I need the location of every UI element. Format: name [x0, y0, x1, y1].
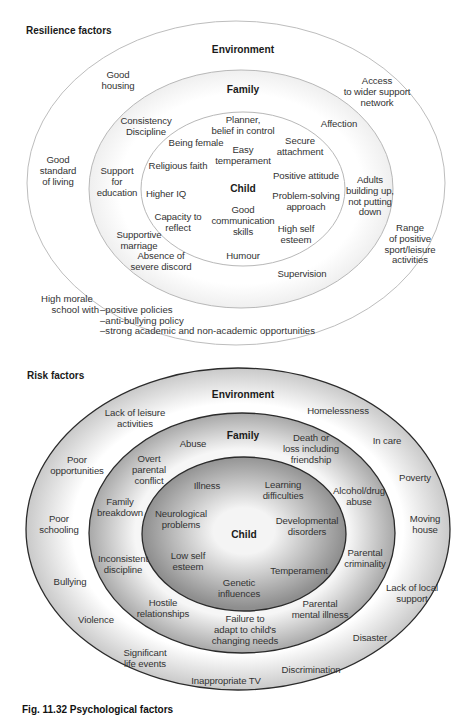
- risk-family-item-death-loss: Death or loss including friendship: [283, 433, 339, 465]
- risk-family-item-parental-criminality: Parental criminality: [344, 548, 386, 570]
- resilience-env-item-good-housing: Good housing: [102, 70, 135, 92]
- resilience-child-item-problem-solving: Problem-solving approach: [272, 191, 339, 213]
- risk-env-item-in-care: In care: [373, 436, 402, 447]
- resilience-env-item-range-activities: Range of positive sport/leisure activiti…: [385, 223, 436, 266]
- resilience-env-item-good-standard: Good standard of living: [40, 155, 77, 187]
- risk-child-item-neurological: Neurological problems: [155, 509, 207, 531]
- resilience-child-item-positive-attitude: Positive attitude: [273, 171, 339, 182]
- risk-env-item-inappropriate-tv: Inappropriate TV: [191, 676, 261, 687]
- risk-env-item-poor-opportunities: Poor opportunities: [50, 455, 104, 477]
- risk-child-item-low-self-esteem: Low self esteem: [171, 551, 205, 573]
- risk-child-item-genetic: Genetic influences: [218, 578, 260, 600]
- risk-family-item-hostile-relationships: Hostile relationships: [137, 598, 190, 620]
- resilience-child-item-higher-iq: Higher IQ: [146, 189, 186, 200]
- risk-family-item-family-breakdown: Family breakdown: [97, 497, 143, 519]
- risk-env-item-poor-schooling: Poor schooling: [39, 514, 79, 536]
- risk-family-item-abuse: Abuse: [180, 439, 207, 450]
- risk-family-item-overt-conflict: Overt parental conflict: [132, 454, 166, 486]
- resilience-family-item-absence-discord: Absence of severe discord: [131, 251, 192, 273]
- resilience-family-label: Family: [227, 84, 259, 95]
- resilience-child-item-secure-attachment: Secure attachment: [277, 136, 323, 158]
- risk-env-item-bullying: Bullying: [54, 577, 87, 588]
- risk-family-item-inconsistent-discipline: Inconsistent discipline: [98, 554, 148, 576]
- resilience-family-item-affection: Affection: [321, 119, 357, 130]
- resilience-family-item-support-education: Support for education: [97, 166, 138, 198]
- resilience-child-item-good-communication: Good communication skills: [211, 205, 274, 237]
- risk-family-item-alcohol-drug: Alcohol/drug abuse: [333, 486, 385, 508]
- risk-child-item-developmental: Developmental disorders: [276, 516, 339, 538]
- risk-env-item-significant-events: Significant life events: [123, 648, 166, 670]
- resilience-child-item-planner: Planner, belief in control: [212, 115, 275, 137]
- risk-env-item-disaster: Disaster: [353, 633, 387, 644]
- resilience-family-item-consistency: Consistency Discipline: [120, 116, 171, 138]
- risk-family-item-parental-mental-illness: Parental mental illness: [292, 599, 349, 621]
- figure-caption: Fig. 11.32 Psychological factors: [22, 704, 173, 715]
- risk-family-label: Family: [227, 430, 259, 441]
- resilience-child-item-high-self-esteem: High self esteem: [278, 224, 314, 246]
- resilience-family-item-adults-building: Adults building up, not putting down: [346, 175, 394, 218]
- risk-env-item-homelessness: Homelessness: [307, 406, 369, 417]
- risk-child-item-learning-difficulties: Learning difficulties: [263, 480, 304, 502]
- risk-env-item-moving-house: Moving house: [410, 514, 440, 536]
- risk-env-item-lack-local-support: Lack of local support: [386, 583, 438, 605]
- resilience-child-item-humour: Humour: [226, 251, 260, 262]
- resilience-child-item-easy-temperament: Easy temperament: [215, 145, 270, 167]
- resilience-title: Resilience factors: [26, 25, 112, 36]
- risk-env-item-lack-leisure: Lack of leisure activities: [105, 408, 165, 430]
- risk-env-item-violence: Violence: [78, 615, 114, 626]
- resilience-child-label: Child: [230, 183, 255, 194]
- risk-family-item-failure-adapt: Failure to adapt to child's changing nee…: [212, 614, 278, 646]
- risk-child-item-temperament: Temperament: [270, 566, 328, 577]
- resilience-family-item-supervision: Supervision: [277, 269, 326, 280]
- risk-env-item-discrimination: Discrimination: [282, 665, 341, 676]
- risk-env-item-poverty: Poverty: [399, 473, 431, 484]
- resilience-environment-label: Environment: [212, 44, 274, 55]
- risk-child-label: Child: [231, 529, 256, 540]
- risk-child-item-illness: Illness: [194, 481, 221, 492]
- resilience-child-item-religious-faith: Religious faith: [149, 161, 208, 172]
- risk-environment-label: Environment: [212, 389, 274, 400]
- risk-title: Risk factors: [27, 370, 84, 381]
- resilience-child-item-capacity-reflect: Capacity to reflect: [155, 212, 202, 234]
- resilience-env-item-access-support: Access to wider support network: [344, 76, 411, 108]
- resilience-env-item-school: High morale school with–positive policie…: [39, 294, 315, 337]
